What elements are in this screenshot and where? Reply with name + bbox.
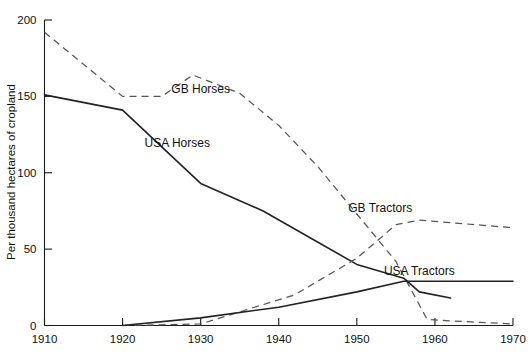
- x-tick-label: 1940: [266, 333, 292, 345]
- y-axis-title: Per thousand hectares of cropland: [5, 84, 17, 260]
- y-tick-label: 150: [17, 90, 36, 102]
- y-tick-label: 200: [17, 14, 36, 26]
- axes: [45, 20, 514, 326]
- x-tick-label: 1930: [188, 333, 214, 345]
- x-tick-label: 1960: [422, 333, 448, 345]
- line-chart-canvas: 050100150200 191019201930194019501960197…: [0, 0, 531, 353]
- x-tick-group: 1910192019301940195019601970: [32, 318, 526, 345]
- x-tick-label: 1910: [32, 333, 58, 345]
- series-group: [45, 32, 514, 325]
- series-label-gb-tractors: GB Tractors: [348, 201, 412, 215]
- series-line-gb-horses: [45, 32, 514, 324]
- y-tick-group: 050100150200: [17, 14, 52, 332]
- series-label-group: GB HorsesUSA HorsesGB TractorsUSA Tracto…: [145, 82, 455, 278]
- chart-figure: 050100150200 191019201930194019501960197…: [0, 0, 531, 353]
- x-tick-label: 1970: [500, 333, 526, 345]
- x-tick-label: 1950: [344, 333, 370, 345]
- series-label-usa-horses: USA Horses: [145, 136, 210, 150]
- y-tick-label: 100: [17, 167, 36, 179]
- y-tick-label: 0: [30, 320, 36, 332]
- series-line-usa-tractors: [123, 281, 513, 325]
- y-tick-label: 50: [24, 243, 37, 255]
- x-tick-label: 1920: [110, 333, 136, 345]
- series-label-gb-horses: GB Horses: [171, 82, 230, 96]
- series-label-usa-tractors: USA Tractors: [384, 264, 455, 278]
